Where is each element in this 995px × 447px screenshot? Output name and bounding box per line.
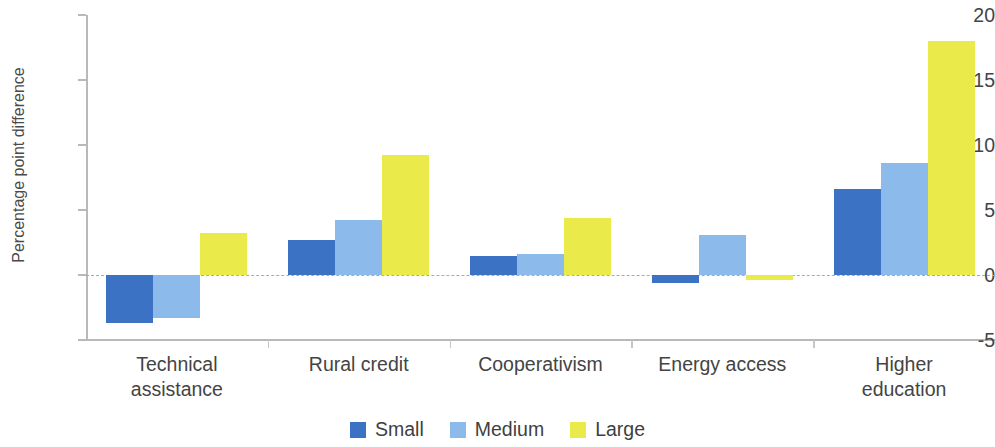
legend-item-large[interactable]: Large — [570, 418, 645, 441]
legend-swatch-icon — [570, 422, 586, 438]
legend-item-small[interactable]: Small — [350, 418, 424, 441]
bar-small-4 — [652, 275, 699, 283]
y-axis-title: Percentage point difference — [10, 0, 40, 345]
legend-label: Small — [375, 418, 424, 441]
chart-figure: Percentage point difference 20151050-5 T… — [0, 0, 995, 447]
y-axis-tick-label: -5 — [933, 329, 995, 352]
bar-medium-3 — [517, 254, 564, 275]
y-axis-tick — [78, 14, 86, 16]
x-axis-category-label: Cooperativism — [450, 352, 632, 377]
zero-reference-line — [86, 275, 995, 276]
y-axis-tick — [78, 209, 86, 211]
x-axis-tick — [268, 340, 270, 348]
y-axis-tick — [78, 144, 86, 146]
legend-swatch-icon — [350, 422, 366, 438]
bar-medium-1 — [153, 275, 200, 318]
y-axis-tick — [78, 274, 86, 276]
legend-item-medium[interactable]: Medium — [450, 418, 544, 441]
bar-small-5 — [834, 189, 881, 275]
bar-small-1 — [106, 275, 153, 323]
x-axis-category-label: Energy access — [631, 352, 813, 377]
bar-medium-4 — [699, 235, 746, 275]
bar-large-5 — [928, 41, 975, 275]
chart-legend: SmallMediumLarge — [0, 418, 995, 441]
x-axis-category-label: Rural credit — [268, 352, 450, 377]
legend-label: Large — [595, 418, 645, 441]
bar-large-1 — [200, 233, 247, 275]
bar-medium-5 — [881, 163, 928, 275]
x-axis-tick — [631, 340, 633, 348]
y-axis-title-text: Percentage point difference — [10, 67, 27, 262]
x-axis-tick — [813, 340, 815, 348]
bar-small-2 — [288, 240, 335, 275]
x-axis-line — [86, 339, 995, 341]
x-axis-tick — [450, 340, 452, 348]
legend-label: Medium — [475, 418, 544, 441]
bar-large-2 — [382, 155, 429, 275]
bar-medium-2 — [335, 220, 382, 275]
x-axis-category-label: Higher education — [813, 352, 995, 402]
y-axis-tick — [78, 79, 86, 81]
bar-large-3 — [564, 218, 611, 275]
y-axis-tick-label: 20 — [933, 4, 995, 27]
bar-small-3 — [470, 256, 517, 276]
y-axis-tick — [78, 339, 86, 341]
x-axis-category-label: Technical assistance — [86, 352, 268, 402]
y-axis-line — [86, 15, 88, 340]
bar-large-4 — [746, 275, 793, 280]
legend-swatch-icon — [450, 422, 466, 438]
